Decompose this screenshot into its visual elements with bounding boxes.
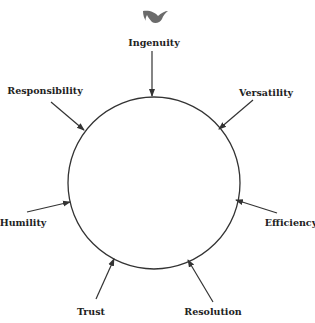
arrow-versatility <box>219 100 253 129</box>
swallow-bird-icon <box>143 11 168 23</box>
label-versatility: Versatility <box>239 87 293 98</box>
label-resolution: Resolution <box>184 306 241 317</box>
arrow-efficiency <box>236 200 277 213</box>
label-responsibility: Responsibility <box>7 85 83 96</box>
center-circle <box>68 97 240 269</box>
label-humility: Humility <box>0 217 46 228</box>
arrow-responsibility <box>51 102 84 130</box>
label-efficiency: Efficiency <box>265 217 315 228</box>
arrow-resolution <box>188 260 213 302</box>
label-trust: Trust <box>77 306 105 317</box>
label-ingenuity: Ingenuity <box>128 37 179 48</box>
value-cycle-diagram <box>0 0 315 323</box>
arrow-humility <box>27 202 70 212</box>
arrow-trust <box>96 259 114 299</box>
